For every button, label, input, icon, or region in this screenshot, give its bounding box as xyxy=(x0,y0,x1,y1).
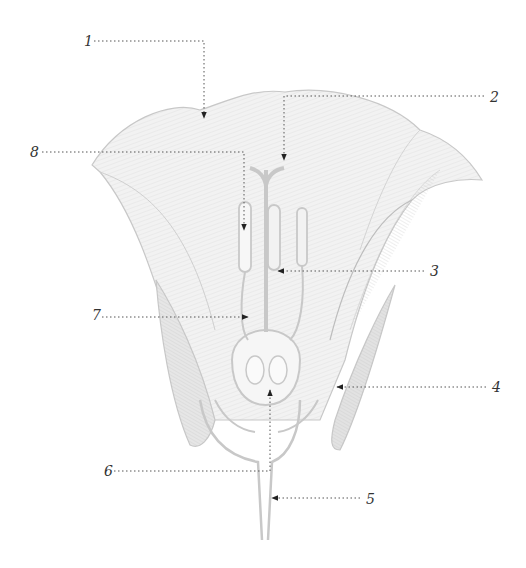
label-1: 1 xyxy=(84,34,93,48)
label-4: 4 xyxy=(492,380,501,394)
label-3: 3 xyxy=(430,264,439,278)
label-5: 5 xyxy=(366,492,375,506)
flower-diagram xyxy=(0,0,526,568)
label-2: 2 xyxy=(490,90,499,104)
label-6: 6 xyxy=(104,464,113,478)
label-7: 7 xyxy=(92,308,101,322)
leader-1 xyxy=(94,41,204,118)
label-8: 8 xyxy=(30,145,39,159)
